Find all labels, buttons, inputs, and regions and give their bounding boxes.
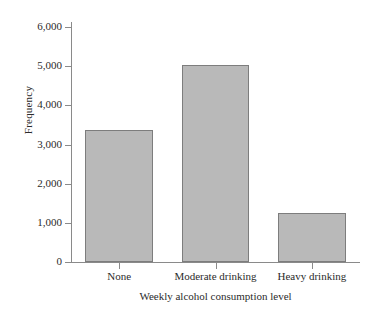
y-tick-label: 1,000 — [18, 217, 62, 228]
x-tick-mark — [119, 263, 120, 269]
bar — [85, 130, 152, 262]
x-tick-mark — [312, 263, 313, 269]
y-tick-label: 0 — [18, 256, 62, 267]
bar-chart: Frequency 6,000 5,000 4,000 3,000 2,000 … — [0, 0, 380, 318]
bar — [182, 65, 249, 262]
y-tick-label: 2,000 — [18, 178, 62, 189]
y-tick-label: 4,000 — [18, 99, 62, 110]
bar — [278, 213, 345, 262]
x-tick-mark — [216, 263, 217, 269]
x-axis-title: Weekly alcohol consumption level — [71, 290, 360, 302]
x-axis-line — [71, 262, 360, 263]
y-axis-line — [71, 22, 72, 263]
x-category-label: Heavy drinking — [254, 270, 370, 282]
y-tick-label: 6,000 — [18, 21, 62, 32]
y-tick-label: 5,000 — [18, 60, 62, 71]
y-tick-label: 3,000 — [18, 139, 62, 150]
y-axis-tick-labels: 6,000 5,000 4,000 3,000 2,000 1,000 0 — [16, 0, 62, 318]
